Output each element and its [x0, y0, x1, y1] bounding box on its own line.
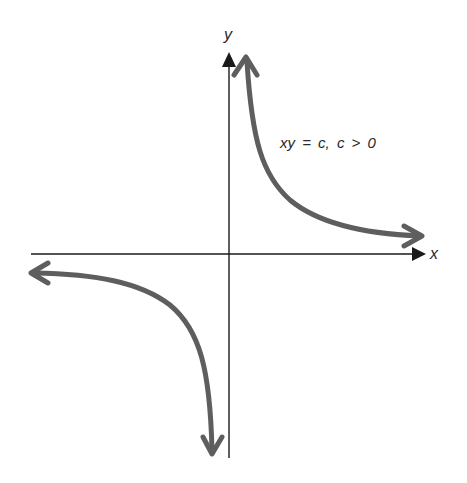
curve-branch-quadrant-3 [31, 263, 222, 454]
y-axis-label: y [224, 26, 232, 44]
x-axis-arrow-icon [412, 247, 426, 261]
y-axis [222, 52, 236, 458]
x-axis-label: x [430, 245, 438, 263]
curve-branch-quadrant-1 [234, 57, 422, 246]
curve-equation-label: xy = c, c > 0 [280, 134, 376, 151]
y-axis-arrow-icon [222, 52, 236, 67]
hyperbola-graph [0, 0, 467, 483]
